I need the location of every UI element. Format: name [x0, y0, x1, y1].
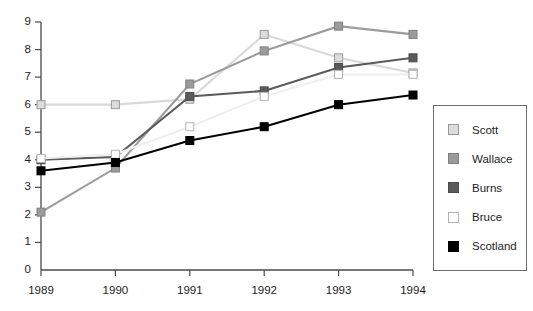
y-tick-label: 3 — [25, 180, 31, 192]
series-marker — [111, 150, 119, 158]
legend-item-label: Bruce — [472, 211, 502, 223]
legend-item-bruce[interactable]: Bruce — [434, 207, 526, 227]
series-marker — [111, 159, 119, 167]
series-marker — [37, 101, 45, 109]
x-tick-label: 1989 — [28, 284, 54, 296]
chart-legend: ScottWallaceBurnsBruceScotland — [433, 105, 527, 271]
series-line — [41, 58, 413, 160]
series-burns — [37, 54, 417, 164]
x-tick-label: 1991 — [177, 284, 203, 296]
y-tick-label: 2 — [25, 208, 31, 220]
legend-item-label: Wallace — [472, 153, 512, 165]
y-tick-label: 1 — [25, 235, 31, 247]
legend-item-scott[interactable]: Scott — [434, 120, 526, 140]
series-marker — [260, 30, 268, 38]
chart-series-layer — [37, 22, 417, 216]
x-tick-label: 1994 — [400, 284, 426, 296]
series-marker — [409, 70, 417, 78]
series-wallace — [37, 22, 417, 216]
series-bruce — [37, 70, 417, 162]
legend-swatch-icon — [448, 153, 459, 164]
series-marker — [186, 123, 194, 131]
series-marker — [37, 167, 45, 175]
legend-item-label: Burns — [472, 182, 502, 194]
y-tick-label: 5 — [25, 125, 31, 137]
legend-swatch-icon — [448, 212, 459, 223]
series-marker — [335, 70, 343, 78]
x-tick-label: 1990 — [103, 284, 129, 296]
legend-item-wallace[interactable]: Wallace — [434, 149, 526, 169]
series-marker — [335, 54, 343, 62]
series-marker — [186, 136, 194, 144]
line-chart: 0123456789 198919901991199219931994 Scot… — [0, 0, 533, 311]
y-tick-label: 7 — [25, 70, 31, 82]
series-marker — [37, 154, 45, 162]
legend-swatch-icon — [448, 241, 459, 252]
y-tick-label: 8 — [25, 43, 31, 55]
series-marker — [409, 54, 417, 62]
series-marker — [409, 91, 417, 99]
series-marker — [335, 22, 343, 30]
series-marker — [260, 92, 268, 100]
legend-item-scotland[interactable]: Scotland — [434, 236, 526, 256]
series-marker — [111, 101, 119, 109]
y-tick-label: 0 — [25, 263, 31, 275]
legend-item-label: Scott — [472, 124, 498, 136]
legend-item-label: Scotland — [472, 240, 517, 252]
legend-swatch-icon — [448, 124, 459, 135]
y-tick-label: 6 — [25, 98, 31, 110]
series-marker — [260, 123, 268, 131]
legend-item-burns[interactable]: Burns — [434, 178, 526, 198]
x-tick-label: 1992 — [251, 284, 277, 296]
series-marker — [186, 92, 194, 100]
series-line — [41, 95, 413, 171]
series-line — [41, 74, 413, 158]
y-tick-label: 4 — [25, 153, 32, 165]
series-scotland — [37, 91, 417, 175]
legend-swatch-icon — [448, 182, 459, 193]
series-marker — [335, 101, 343, 109]
series-scott — [37, 30, 417, 108]
series-line — [41, 26, 413, 212]
x-axis-tick-labels: 198919901991199219931994 — [28, 284, 426, 296]
series-marker — [37, 208, 45, 216]
chart-axes — [35, 22, 413, 276]
y-tick-label: 9 — [25, 15, 31, 27]
y-axis-tick-labels: 0123456789 — [25, 15, 32, 275]
x-tick-label: 1993 — [326, 284, 352, 296]
series-marker — [260, 47, 268, 55]
series-marker — [186, 80, 194, 88]
series-marker — [409, 30, 417, 38]
